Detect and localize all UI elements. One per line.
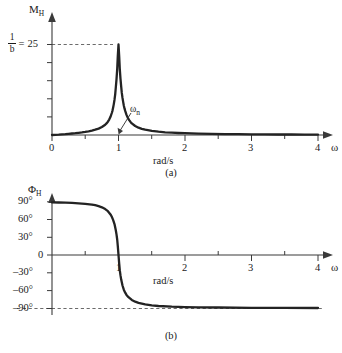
phase-axis-label-text: Φ <box>28 183 36 195</box>
phase-ytick-m60: –60° <box>13 285 33 296</box>
magnitude-axis-label-text: M <box>29 3 39 15</box>
magnitude-x-axis-arrow <box>323 131 333 139</box>
magnitude-axis-label-sub: H <box>39 9 44 18</box>
resonance-annotation-arrowhead <box>118 128 123 135</box>
magnitude-axis-label: MH <box>29 4 44 18</box>
panel-b-caption: (b) <box>0 330 342 341</box>
phase-plot-svg <box>0 175 342 353</box>
phase-xtick-3: 3 <box>248 263 253 274</box>
phase-x-minor-ticks <box>85 251 285 255</box>
resonance-frequency-label: ωn <box>130 105 140 116</box>
magnitude-xtick-3: 3 <box>248 143 253 154</box>
magnitude-x-major-ticks <box>52 135 318 141</box>
phase-ytick-0: 0 <box>38 250 43 261</box>
magnitude-xtick-1: 1 <box>116 143 121 154</box>
peak-value-denominator: b <box>10 44 15 54</box>
resonance-frequency-sub: n <box>136 108 140 117</box>
peak-value-equals: = <box>18 38 25 49</box>
magnitude-xtick-4: 4 <box>315 143 320 154</box>
magnitude-xtick-2: 2 <box>182 143 187 154</box>
phase-y-ticks <box>47 202 52 309</box>
magnitude-response-curve <box>52 45 318 136</box>
peak-value-number: 25 <box>24 38 38 49</box>
phase-ytick-30: 30° <box>18 232 33 243</box>
peak-value-numerator: 1 <box>10 33 15 43</box>
magnitude-xtick-0: 0 <box>49 143 54 154</box>
phase-ytick-60: 60° <box>18 214 33 225</box>
peak-value-label: 1 b = 25 <box>8 33 38 54</box>
phase-x-axis-units: rad/s <box>153 275 173 286</box>
magnitude-x-axis-symbol: ω <box>331 142 338 153</box>
phase-axis-label-sub: H <box>36 189 41 198</box>
peak-value-fraction: 1 b <box>8 33 16 54</box>
phase-x-axis-symbol: ω <box>331 262 338 273</box>
phase-ytick-m30: –30° <box>13 267 33 278</box>
phase-x-major-ticks <box>119 255 319 261</box>
magnitude-x-axis-units: rad/s <box>153 155 173 166</box>
phase-ytick-90: 90° <box>18 196 33 207</box>
phase-ytick-m90: –90° <box>13 303 33 314</box>
magnitude-y-ticks <box>47 45 52 117</box>
frequency-response-figure: MH 1 b = 25 ωn 0 1 2 3 4 ω rad/s (a) <box>0 0 342 353</box>
magnitude-y-axis-arrow <box>48 12 56 22</box>
magnitude-panel: MH 1 b = 25 ωn 0 1 2 3 4 ω rad/s (a) <box>0 0 342 175</box>
phase-xtick-1: 1 <box>116 263 121 274</box>
phase-xtick-2: 2 <box>182 263 187 274</box>
phase-x-axis-arrow <box>323 251 333 259</box>
phase-panel: ΦH 90° 60° 30° 0 –30° –60° –90° 1 2 3 4 … <box>0 175 342 353</box>
phase-xtick-4: 4 <box>315 263 320 274</box>
